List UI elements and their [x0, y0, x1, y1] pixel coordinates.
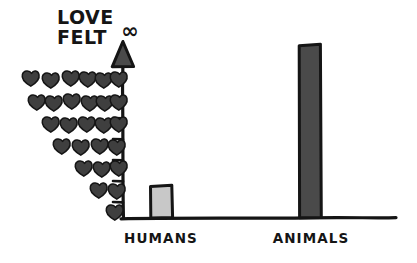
heart-icon [90, 183, 107, 198]
chart-canvas: ∞ LOVE FELT [0, 0, 417, 263]
bar-humans-rect[interactable] [151, 185, 173, 218]
heart-icon [62, 71, 79, 86]
heart-icon [95, 118, 112, 133]
heart-icon [91, 139, 108, 154]
heart-row [90, 183, 125, 199]
heart-icon [63, 94, 80, 109]
heart-icon [110, 117, 127, 132]
heart-row [75, 161, 127, 177]
heart-icon [78, 117, 95, 132]
heart-icon [22, 71, 39, 86]
heart-row [28, 94, 127, 111]
heart-icon [60, 118, 77, 133]
heart-row [42, 117, 127, 133]
heart-icon [75, 161, 92, 176]
bar-animals-rect[interactable] [299, 44, 321, 218]
heart-icon [42, 117, 59, 132]
heart-icon [110, 161, 127, 176]
heart-row [22, 71, 127, 88]
heart-icon [110, 72, 127, 87]
infinity-symbol: ∞ [121, 19, 139, 43]
heart-row [53, 139, 125, 155]
heart-cloud [22, 71, 127, 220]
y-axis-arrowhead [112, 42, 133, 67]
heart-icon [81, 96, 98, 111]
heart-icon [42, 73, 59, 88]
bar-humans[interactable] [151, 185, 173, 218]
love-felt-chart: ∞ LOVE FELT [0, 0, 417, 263]
bar-animals[interactable] [299, 44, 321, 218]
heart-icon [79, 72, 96, 87]
y-axis-title-line-1: LOVE [57, 6, 114, 28]
heart-icon [72, 140, 89, 155]
heart-icon [93, 162, 110, 177]
heart-icon [53, 139, 70, 154]
y-axis-title: LOVE FELT [57, 6, 114, 48]
heart-icon [28, 95, 45, 110]
heart-icon [45, 96, 62, 111]
heart-icon [95, 73, 112, 88]
x-tick-label-humans: HUMANS [124, 230, 198, 246]
y-axis-title-line-2: FELT [57, 26, 107, 48]
heart-icon [110, 95, 127, 110]
x-tick-label-animals: ANIMALS [273, 230, 350, 246]
